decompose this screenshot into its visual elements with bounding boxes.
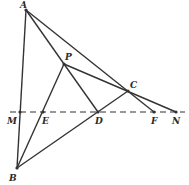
label-d: D [94, 116, 103, 126]
label-f: F [150, 116, 158, 126]
label-m: M [6, 116, 18, 126]
geometry-diagram: A P C M E D F N B [0, 0, 189, 185]
point-f [152, 110, 155, 113]
point-p [62, 62, 65, 65]
point-b [15, 166, 18, 169]
label-a: A [19, 0, 27, 10]
segment-ap [26, 10, 64, 64]
label-n: N [171, 116, 181, 126]
label-c: C [130, 80, 138, 90]
label-e: E [41, 116, 49, 126]
point-d [96, 110, 99, 113]
segment-ab [17, 10, 26, 168]
label-b: B [8, 173, 17, 183]
point-e [41, 110, 44, 113]
label-p: P [64, 52, 72, 62]
segment-af [26, 10, 154, 112]
point-m [18, 110, 21, 113]
point-n [174, 110, 177, 113]
